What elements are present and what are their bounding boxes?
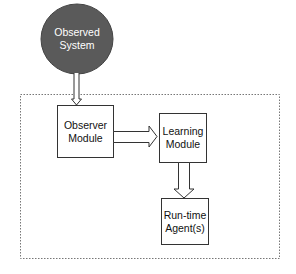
runtime-agents-label: Run-time Agent(s) bbox=[161, 209, 209, 235]
observed-system-label-line2: System bbox=[41, 39, 113, 52]
arrow-observer-to-learning bbox=[114, 126, 158, 147]
arrow-learning-to-runtime bbox=[174, 163, 194, 199]
observer-module-label-line2: Module bbox=[57, 132, 114, 145]
learning-module-label-line2: Module bbox=[159, 138, 207, 151]
learning-module-label: Learning Module bbox=[159, 125, 207, 151]
observer-module-label: Observer Module bbox=[57, 119, 114, 145]
observer-module-label-line1: Observer bbox=[57, 119, 114, 132]
runtime-agents-label-line1: Run-time bbox=[161, 209, 209, 222]
learning-module-label-line1: Learning bbox=[159, 125, 207, 138]
observed-system-label: Observed System bbox=[41, 26, 113, 52]
observed-system-label-line1: Observed bbox=[41, 26, 113, 39]
arrow-observed-to-observer bbox=[72, 73, 82, 105]
runtime-agents-label-line2: Agent(s) bbox=[161, 222, 209, 235]
